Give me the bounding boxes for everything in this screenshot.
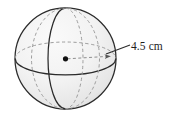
sphere-figure: 4.5 cm [0, 0, 175, 117]
center-dot [63, 56, 68, 61]
radius-dimension-label: 4.5 cm [131, 40, 163, 53]
sphere-diagram-svg [0, 0, 175, 117]
